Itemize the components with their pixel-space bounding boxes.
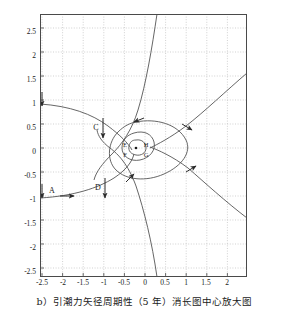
y-tick-label: 2.5 [27,28,36,36]
x-axis-labels: -2.5 -2 -1.5 -1 -0.5 0 0.5 1 1.5 2 [0,279,288,293]
plot-area: A C D E F H G [40,14,247,277]
label-e: E [123,141,127,148]
y-tick-label: -2.5 [24,268,36,276]
figure-container: 2.5 2 1.5 1 0.5 0 -0.5 -1 -1.5 -2 -2.5 -… [0,0,288,316]
y-tick-label: -1.5 [24,220,36,228]
origin-dot [135,147,138,150]
x-tick-label: 1.5 [195,279,217,287]
x-tick-label: 2 [216,279,238,287]
x-tick-label: -2 [52,279,74,287]
x-tick-label: 1 [175,279,197,287]
label-c: C [93,123,98,132]
y-axis-labels: 2.5 2 1.5 1 0.5 0 -0.5 -1 -1.5 -2 -2.5 [8,0,36,316]
x-tick-label: 0.5 [154,279,176,287]
y-tick-label: 1 [32,100,36,108]
y-tick-label: 1.5 [27,76,36,84]
y-tick-label: -0.5 [24,172,36,180]
y-tick-label: -2 [30,244,36,252]
trajectory-chart: A C D E F H G [40,14,247,277]
x-tick-label: -0.5 [113,279,135,287]
figure-caption: b）引潮力矢径周期性（5 年）消长图中心放大图 [0,295,288,308]
x-tick-label: 0 [134,279,156,287]
label-d: D [95,183,101,192]
y-tick-label: 0.5 [27,124,36,132]
label-g: G [144,151,149,158]
y-tick-label: 2 [32,52,36,60]
x-tick-label: -1 [93,279,115,287]
label-h: H [144,141,149,148]
x-tick-label: -2.5 [31,279,53,287]
x-tick-label: -1.5 [72,279,94,287]
label-f: F [123,151,127,158]
y-tick-label: 0 [32,148,36,156]
label-a: A [49,186,55,195]
y-tick-label: -1 [30,196,36,204]
